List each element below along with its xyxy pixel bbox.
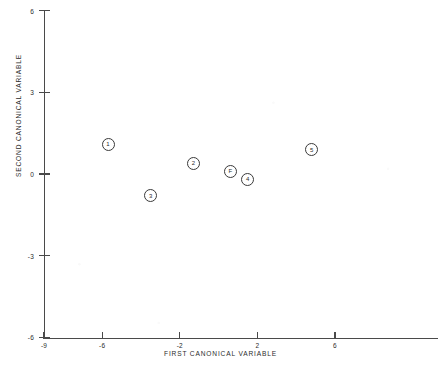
data-point-marker: 2 <box>187 157 200 170</box>
x-tick-label: 2 <box>242 342 272 349</box>
x-tick-label: -6 <box>87 342 117 349</box>
data-point-marker: 4 <box>241 173 254 186</box>
paper-grain-overlay <box>0 0 441 367</box>
x-tick-mark <box>179 332 180 339</box>
x-tick-mark <box>43 332 44 339</box>
x-tick-label: -9 <box>29 342 59 349</box>
y-axis-title: SECOND CANONICAL VARIABLE <box>15 46 22 186</box>
x-axis-line <box>44 338 438 339</box>
data-point-marker: 5 <box>305 143 318 156</box>
x-axis-title: FIRST CANONICAL VARIABLE <box>0 350 441 357</box>
scatter-plot-figure: 630-3-6 -9-6-226 132F45 FIRST CANONICAL … <box>0 0 441 367</box>
data-point-marker: 3 <box>144 189 157 202</box>
x-tick-mark <box>334 332 335 339</box>
y-tick-label: -6 <box>6 334 34 341</box>
y-tick-mark <box>39 255 50 256</box>
y-tick-mark <box>39 173 50 174</box>
x-tick-label: -2 <box>165 342 195 349</box>
x-tick-mark <box>102 332 103 339</box>
data-point-marker: 1 <box>102 138 115 151</box>
x-tick-mark <box>257 332 258 339</box>
y-tick-mark <box>39 92 50 93</box>
data-point-marker: F <box>224 165 237 178</box>
y-tick-mark <box>39 10 50 11</box>
x-tick-label: 6 <box>320 342 350 349</box>
y-tick-label: 6 <box>6 7 34 14</box>
y-tick-label: -3 <box>6 252 34 259</box>
